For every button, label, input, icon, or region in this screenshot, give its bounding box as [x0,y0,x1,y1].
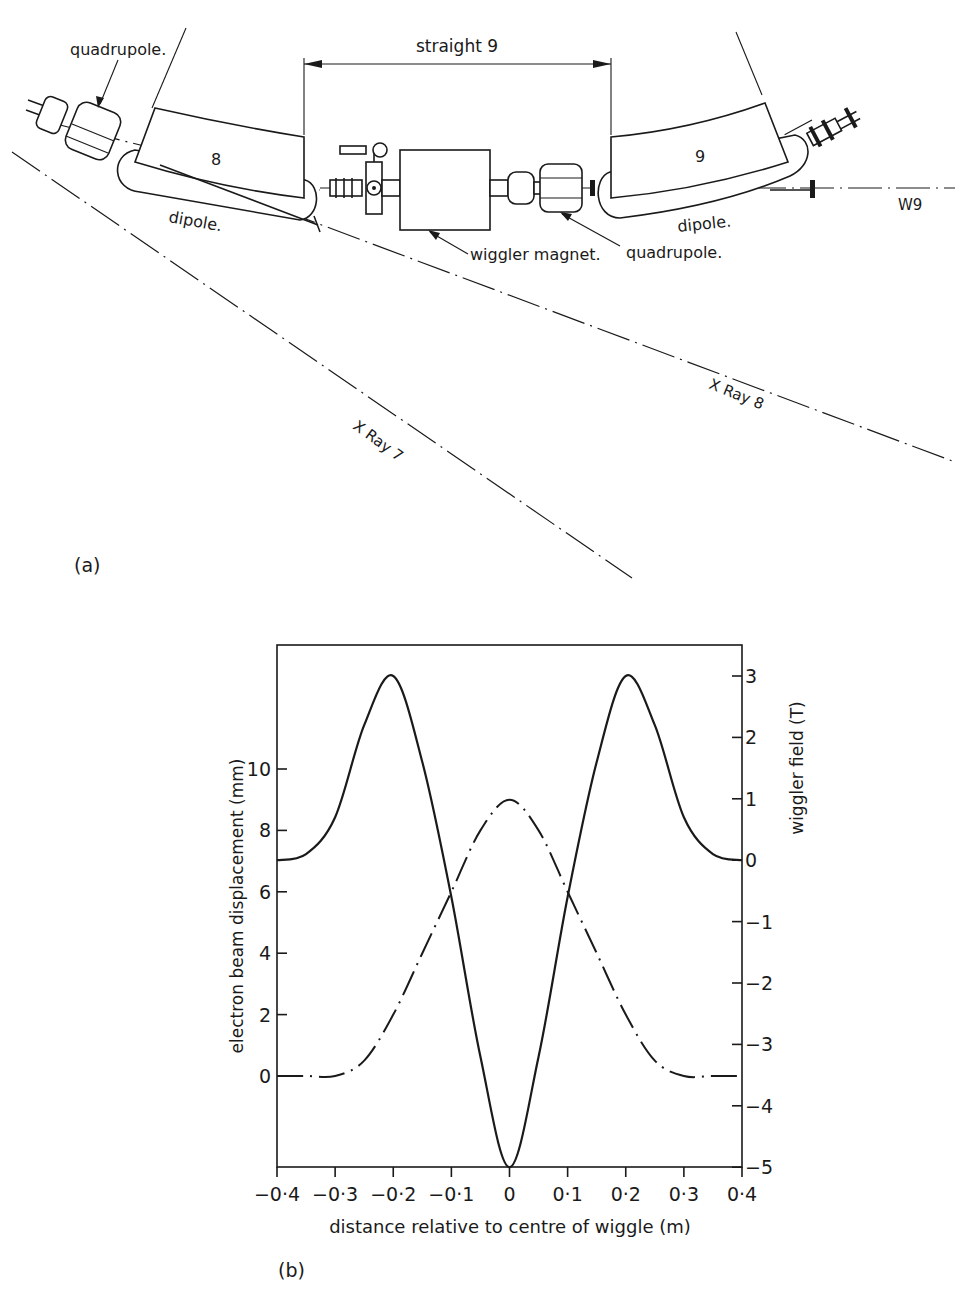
wiggler-magnet [400,150,490,230]
left-flange [26,95,69,136]
left-axis: 0246810 [247,758,287,1087]
right-axis: 3210−1−2−3−4−5 [732,665,773,1178]
leader-arrow-icon [560,212,572,221]
dipole-right-label: dipole. [676,211,732,236]
y-left-tick-label: 8 [259,819,271,841]
panel-a-label: (a) [74,554,100,576]
quadrupole-left-label: quadrupole. [70,40,166,59]
dipole9-number: 9 [695,147,705,166]
y-right-tick-label: −1 [745,911,773,933]
dipole9-port-end [810,180,815,198]
x-tick-label: 0 [503,1183,515,1205]
wiggler-label: wiggler magnet. [470,245,601,264]
x-tick-label: 0·4 [727,1183,757,1205]
bellows-valve [330,143,400,214]
quadrupole-right-leader [562,214,620,246]
panel-b-label: (b) [278,1259,305,1281]
y-left-tick-label: 2 [259,1004,271,1026]
y-right-tick-label: 3 [745,665,757,687]
xray7-label: X Ray 7 [350,417,407,465]
left-quadrupole [62,99,123,163]
w9-label: W9 [898,196,922,214]
y-left-tick-label: 10 [247,758,271,780]
arrowhead-left-icon [304,60,322,68]
y-left-tick-label: 0 [259,1065,271,1087]
y-right-tick-label: 2 [745,726,757,748]
y-right-tick-label: −2 [745,972,773,994]
beam-displacement-curve [277,800,742,1077]
figure-canvas: straight 9 X Ray 7 X Ray 8 quadrupole. 8 [0,0,972,1315]
x-tick-label: −0·4 [254,1183,300,1205]
quadrupole-right-label: quadrupole. [626,243,722,262]
y-left-tick-label: 4 [259,942,271,964]
right-flange [805,104,863,149]
y-left-tick-label: 6 [259,881,271,903]
x-axis: −0·4−0·3−0·2−0·100·10·20·30·4 [254,1167,757,1205]
y-right-tick-label: −5 [745,1156,773,1178]
y-right-tick-label: 1 [745,788,757,810]
arrowhead-right-icon [593,60,611,68]
right-small-element [490,172,542,204]
dipole8-number: 8 [211,150,221,169]
x-tick-label: −0·3 [312,1183,358,1205]
xray7-line [12,152,632,578]
plot-frame [277,645,742,1167]
beamline-schematic: straight 9 X Ray 7 X Ray 8 quadrupole. 8 [12,28,955,578]
leader-arrow-icon [428,230,440,240]
x-tick-label: 0·3 [669,1183,699,1205]
y-right-tick-label: −3 [745,1033,773,1055]
x-tick-label: −0·1 [428,1183,474,1205]
straight-label: straight 9 [416,36,498,56]
x-tick-label: 0·1 [553,1183,583,1205]
x-tick-label: 0·2 [611,1183,641,1205]
wiggler-field-curve [277,675,742,1167]
quadrupole-left-leader [100,60,118,104]
y-right-tick-label: −4 [745,1095,773,1117]
y-right-label: wiggler field (T) [787,701,807,835]
wiggler-chart: 0246810 3210−1−2−3−4−5 −0·4−0·3−0·2−0·10… [227,645,807,1281]
y-left-label: electron beam displacement (mm) [227,759,247,1054]
dipole9-guide-line [736,32,762,95]
dipole-left-label: dipole. [167,207,223,235]
y-right-tick-label: 0 [745,849,757,871]
x-tick-label: −0·2 [370,1183,416,1205]
x-axis-label: distance relative to centre of wiggle (m… [329,1216,691,1237]
